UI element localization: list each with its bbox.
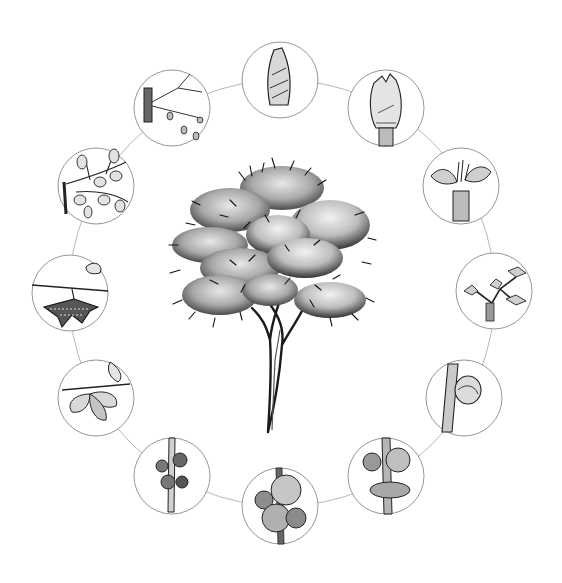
central-tree-illustration: [169, 158, 376, 432]
stage-12-leaf-fall: [134, 70, 210, 146]
stage-2-bud-swelling: [348, 70, 424, 146]
stage-8-fruit-clusters: [134, 438, 210, 514]
stage-10-mature-samara: [32, 255, 108, 331]
stage-1-dormant-bud: [242, 42, 318, 118]
diagram-canvas: [0, 0, 562, 583]
stage-7-full-bloom: [242, 468, 318, 544]
stage-9-seeds-with-leaves: [58, 360, 134, 436]
growth-cycle-diagram: [0, 0, 562, 583]
stage-11-summer-foliage: [58, 148, 134, 224]
stage-4-young-shoot: [456, 253, 532, 329]
stage-5-flower-bud: [426, 360, 502, 436]
stage-3-leaves-emerging: [423, 148, 499, 224]
stage-6-flowers-opening: [348, 438, 424, 514]
